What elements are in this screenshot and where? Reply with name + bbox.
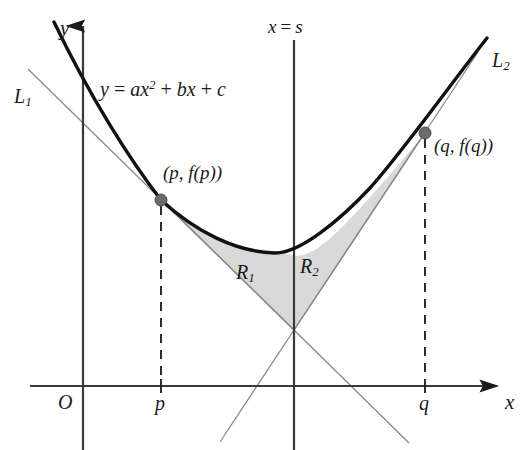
eq-exponent: 2: [149, 77, 156, 92]
region-label-R2-sub: 2: [312, 264, 319, 279]
eq-a: a: [130, 78, 140, 100]
tangent-label-L2: L2: [492, 50, 510, 72]
x-axis-label: x: [505, 392, 514, 413]
eq-x-2: x: [187, 78, 196, 100]
point-label-p: (p, f(p)): [163, 163, 222, 182]
vline-label-x: x: [268, 16, 276, 37]
region-R2-tangent-edge: [294, 133, 425, 330]
eq-x: x: [140, 78, 149, 100]
region-label-R1: R1: [236, 262, 255, 284]
vline-label-eq: =: [280, 16, 291, 37]
eq-equals: =: [114, 78, 125, 100]
eq-b: b: [177, 78, 187, 100]
tangent-line-L1-extension: [348, 383, 409, 443]
tick-label-p: p: [155, 393, 165, 413]
vline-label-s: s: [295, 16, 302, 37]
origin-label: O: [58, 392, 72, 412]
figure-canvas: [0, 0, 529, 450]
y-axis-label: y: [60, 18, 69, 39]
region-label-R1-base: R: [236, 261, 248, 283]
tangent-label-L1: L1: [14, 86, 32, 108]
point-dot-q: [419, 127, 431, 139]
curve-equation-label: y=ax2+bx+c: [100, 78, 226, 99]
tangent-label-L1-base: L: [14, 85, 25, 107]
eq-plus-2: +: [201, 78, 212, 100]
tick-label-q: q: [419, 393, 429, 413]
parabola-tangent-figure: y x O p q x=s L1 L2 y=ax2+bx+c (p, f(p))…: [0, 0, 529, 450]
eq-plus-1: +: [161, 78, 172, 100]
eq-c: c: [217, 78, 226, 100]
point-dot-p: [155, 194, 167, 206]
region-label-R2-base: R: [300, 255, 312, 277]
tangent-label-L1-sub: 1: [25, 94, 32, 109]
region-label-R1-sub: 1: [248, 270, 255, 285]
tangent-label-L2-base: L: [492, 49, 503, 71]
tangent-label-L2-sub: 2: [503, 58, 510, 73]
region-label-R2: R2: [300, 256, 319, 278]
vertical-line-label: x=s: [268, 17, 303, 36]
tangent-line-L2-top: [449, 52, 478, 96]
eq-y: y: [100, 78, 109, 100]
point-label-q: (q, f(q)): [434, 136, 493, 155]
